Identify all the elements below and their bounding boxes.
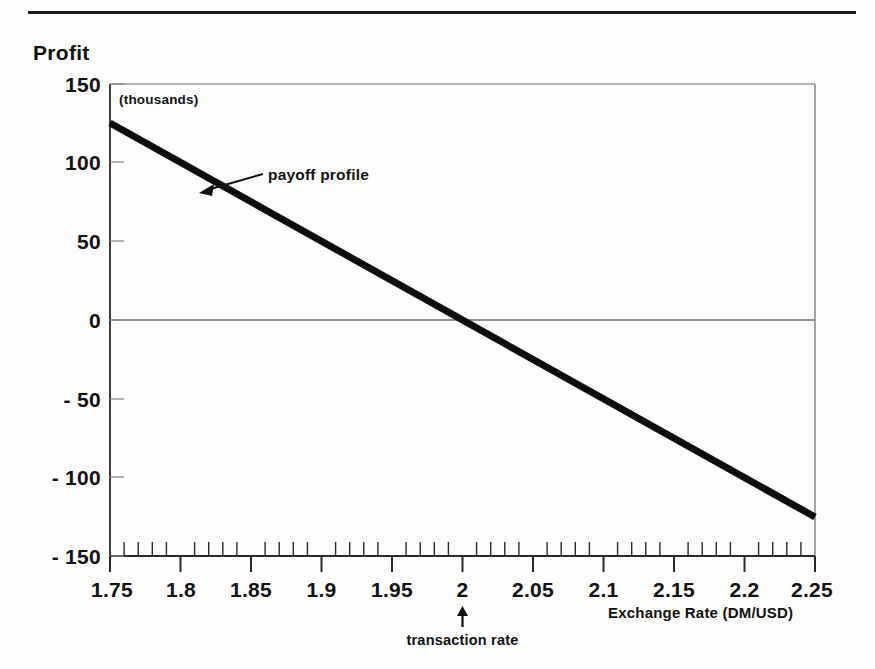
x-axis-major-ticks — [110, 556, 815, 572]
y-tick-label-100: 100 — [65, 151, 101, 174]
y-tick-label-0: 0 — [89, 309, 101, 332]
callout-arrow-head — [199, 184, 214, 196]
x-tick-label-1.95: 1.95 — [371, 578, 413, 601]
x-tick-label-2.25: 2.25 — [791, 578, 833, 601]
x-tick-label-2.15: 2.15 — [653, 578, 695, 601]
y-axis-units-note: (thousands) — [119, 92, 198, 107]
transaction-rate-arrow-head — [457, 606, 468, 616]
payoff-profile-callout: payoff profile — [199, 166, 369, 196]
y-axis-tick-labels: 150 100 50 0 - 50 - 100 - 150 — [52, 73, 101, 568]
x-tick-label-2.05: 2.05 — [512, 578, 554, 601]
y-tick-label-150: 150 — [65, 73, 101, 96]
x-tick-label-1.9: 1.9 — [306, 578, 336, 601]
x-tick-label-1.85: 1.85 — [230, 578, 272, 601]
x-tick-label-2.1: 2.1 — [588, 578, 618, 601]
transaction-rate-marker: transaction rate — [407, 606, 519, 648]
x-tick-label-1.8: 1.8 — [166, 578, 196, 601]
y-tick-label-neg150: - 150 — [52, 545, 101, 568]
payoff-profile-chart: 150 100 50 0 - 50 - 100 - 150 — [0, 0, 875, 669]
x-axis-tick-labels: 1.75 1.8 1.85 1.9 1.95 2 2.05 2.1 2.15 2… — [91, 578, 833, 601]
y-axis-ticks — [110, 84, 124, 556]
x-tick-label-2.2: 2.2 — [729, 578, 759, 601]
x-tick-label-2: 2 — [457, 578, 469, 601]
chart-page: Profit 150 100 50 0 - 50 — [0, 0, 875, 669]
y-tick-label-neg100: - 100 — [52, 466, 101, 489]
payoff-profile-label: payoff profile — [268, 166, 369, 183]
y-tick-label-neg50: - 50 — [64, 388, 101, 411]
transaction-rate-label: transaction rate — [407, 632, 519, 648]
x-axis-title: Exchange Rate (DM/USD) — [608, 604, 793, 621]
y-tick-label-50: 50 — [77, 230, 101, 253]
x-tick-label-1.75: 1.75 — [91, 578, 133, 601]
x-axis-minor-ticks — [124, 542, 801, 556]
